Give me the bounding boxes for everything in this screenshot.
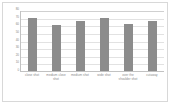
y-axis: 01020304050607080 — [7, 10, 19, 72]
y-axis-tick-label: 20 — [16, 54, 19, 57]
y-axis-tick-label: 50 — [16, 31, 19, 34]
bar[interactable] — [52, 25, 61, 71]
chart-plot-wrapper: 01020304050607080 close shotmedium close… — [3, 3, 167, 101]
x-axis-tick-label: medium close shot — [45, 74, 67, 81]
x-axis-tick-label: over the shoulder shot — [117, 74, 139, 81]
bar-series — [21, 11, 164, 71]
x-axis-tick-label: cutaway — [141, 74, 163, 78]
bar-slot — [21, 11, 45, 71]
bar-slot — [92, 11, 116, 71]
bar[interactable] — [76, 21, 85, 71]
x-axis-tick-slot: over the shoulder shot — [116, 74, 140, 102]
y-axis-tick-label: 40 — [16, 39, 19, 42]
x-axis-tick-label: wide shot — [93, 74, 115, 78]
chart-frame: 01020304050607080 close shotmedium close… — [2, 2, 168, 102]
bar[interactable] — [148, 21, 157, 71]
y-axis-tick-label: 60 — [16, 24, 19, 27]
plot-area — [20, 11, 164, 72]
y-axis-tick-label: 10 — [16, 62, 19, 65]
x-axis-tick-label: medium shot — [69, 74, 91, 78]
x-axis-tick-slot: wide shot — [92, 74, 116, 102]
bar-slot — [116, 11, 140, 71]
bar[interactable] — [124, 24, 133, 71]
bar-slot — [45, 11, 69, 71]
y-axis-tick-label: 70 — [16, 16, 19, 19]
x-axis: close shotmedium close shotmedium shotwi… — [20, 74, 164, 102]
y-axis-tick-label: 30 — [16, 46, 19, 49]
x-axis-tick-slot: medium shot — [68, 74, 92, 102]
bar-slot — [69, 11, 93, 71]
x-axis-tick-slot: medium close shot — [44, 74, 68, 102]
x-axis-tick-slot: cutaway — [140, 74, 164, 102]
y-axis-tick-label: 0 — [17, 69, 19, 72]
bar[interactable] — [100, 18, 109, 71]
bar-slot — [140, 11, 164, 71]
x-axis-tick-label: close shot — [21, 74, 43, 78]
y-axis-tick-label: 80 — [16, 8, 19, 11]
x-axis-tick-slot: close shot — [20, 74, 44, 102]
bar[interactable] — [28, 18, 37, 71]
